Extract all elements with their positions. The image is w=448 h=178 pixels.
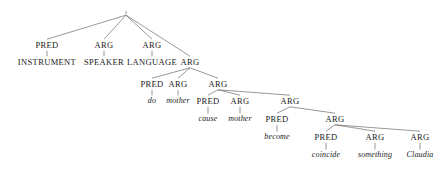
- tree-node-label: ARG: [326, 115, 345, 124]
- tree-node-label: PRED: [196, 97, 219, 106]
- tree-node-label: ARG: [231, 97, 250, 106]
- tree-leaf-label: something: [358, 151, 392, 159]
- tree-node-label: ARG: [95, 41, 114, 50]
- tree-node-label: SPEAKER: [84, 58, 124, 67]
- tree-node-label: ARG: [411, 133, 430, 142]
- tree-edge: [47, 15, 126, 39]
- tree-node-label: PRED: [140, 80, 163, 89]
- tree-leaf-label: mother: [166, 97, 190, 105]
- tree-node-label: ARG: [143, 41, 162, 50]
- tree-node-label: LANGUAGE: [127, 58, 177, 67]
- dependency-parse-tree-figure: PREDARGARGINSTRUMENTSPEAKERLANGUAGEARGPR…: [0, 0, 448, 178]
- tree-leaf-label: mother: [228, 115, 252, 123]
- tree-node-label: ARG: [281, 97, 300, 106]
- tree-node-label: INSTRUMENT: [18, 58, 76, 67]
- tree-leaf-label: cause: [199, 115, 218, 123]
- tree-node-label: PRED: [314, 133, 337, 142]
- tree-node-label: ARG: [209, 80, 228, 89]
- tree-edge: [190, 68, 218, 78]
- tree-node-label: PRED: [35, 41, 58, 50]
- tree-node-label: ARG: [169, 80, 188, 89]
- tree-node-label: PRED: [265, 115, 288, 124]
- tree-edge: [326, 125, 335, 131]
- tree-edge: [335, 125, 420, 131]
- tree-leaf-label: Claudia: [407, 151, 434, 159]
- tree-node-label: ARG: [181, 58, 200, 67]
- tree-edge: [277, 107, 290, 113]
- tree-leaf-label: coincide: [312, 151, 340, 159]
- tree-edge: [290, 107, 335, 113]
- tree-leaf-label: become: [264, 133, 289, 141]
- tree-edge: [208, 90, 218, 95]
- tree-leaf-label: do: [148, 97, 156, 105]
- tree-edge: [126, 15, 190, 56]
- tree-node-label: ARG: [366, 133, 385, 142]
- tree-edge: [335, 125, 375, 131]
- tree-edge: [126, 15, 152, 39]
